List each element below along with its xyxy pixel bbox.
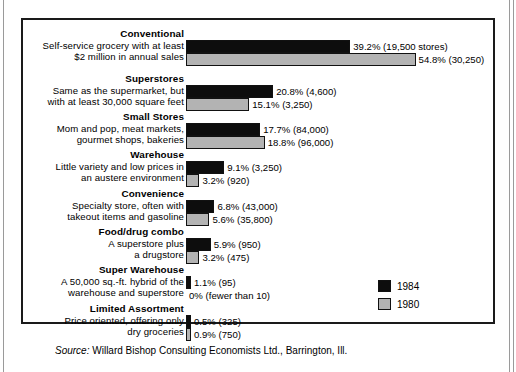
source-text: Willard Bishop Consulting Economists Ltd… [89,345,347,356]
chart-row: WarehouseLittle variety and low prices i… [23,151,493,181]
row-label-block: Limited AssortmentPrice oriented, offeri… [23,303,184,338]
bar-1980 [186,213,209,226]
page-edge-rule-right-outer [513,0,514,372]
page-edge-rule-right [509,0,510,372]
row-category-label: Super Warehouse [23,264,184,276]
bar-value-label-1984: 1.1% (95) [194,277,236,288]
bar-value-label-1980: 5.6% (35,800) [212,214,272,225]
bar-value-label-1984: 9.1% (3,250) [227,162,282,173]
chart-row: Food/drug comboA superstore plusa drugst… [23,228,493,258]
bar-value-label-1980: 0.9% (750) [194,329,241,340]
row-label-block: Food/drug comboA superstore plusa drugst… [23,226,184,261]
chart-row: ConvenienceSpecialty store, often withta… [23,190,493,220]
bar-1984 [186,123,260,136]
row-category-label: Limited Assortment [23,303,184,315]
row-description-line2: with at least 30,000 square feet [23,96,184,108]
row-label-block: SuperstoresSame as the supermarket, butw… [23,73,184,108]
bar-1980 [186,174,199,187]
row-description-line1: Same as the supermarket, but [23,85,184,97]
chart-legend: 1984 1980 [378,279,419,315]
legend-item-1980: 1980 [378,297,419,311]
bar-value-label-1984: 17.7% (84,000) [263,124,329,135]
bar-value-label-1980: 0% (fewer than 10) [189,290,270,301]
bar-value-label-1980: 15.1% (3,250) [252,99,312,110]
bar-1984 [186,276,191,289]
chart-row: Super WarehouseA 50,000 sq.-ft. hybrid o… [23,266,493,296]
row-category-label: Superstores [23,73,184,85]
row-category-label: Conventional [23,28,184,40]
source-prefix: Source: [55,345,89,356]
bar-1984 [186,161,224,174]
chart-rows: ConventionalSelf-service grocery with at… [23,20,493,322]
legend-swatch-1980-icon [378,298,391,310]
bar-value-label-1984: 6.8% (43,000) [217,201,277,212]
bar-value-label-1980: 3.2% (475) [202,252,249,263]
row-label-block: WarehouseLittle variety and low prices i… [23,149,184,184]
chart-row: ConventionalSelf-service grocery with at… [23,30,493,60]
row-description-line2: warehouse and superstore [23,287,184,299]
chart-row: Limited AssortmentPrice oriented, offeri… [23,305,493,335]
legend-item-1984: 1984 [378,279,419,293]
chart-frame: ConventionalSelf-service grocery with at… [21,18,495,324]
bar-1984 [186,315,191,328]
row-description-line2: a drugstore [23,249,184,261]
chart-row: SuperstoresSame as the supermarket, butw… [23,75,493,105]
row-category-label: Food/drug combo [23,226,184,238]
bar-value-label-1984: 0.5% (325) [194,316,241,327]
bar-value-label-1984: 5.9% (950) [214,239,261,250]
bar-1984 [186,200,214,213]
row-description-line1: A superstore plus [23,238,184,250]
bar-1980 [186,136,265,149]
row-description-line2: gourmet shops, bakeries [23,134,184,146]
row-description-line1: Self-service grocery with at least [23,40,184,52]
row-category-label: Small Stores [23,111,184,123]
bar-value-label-1984: 20.8% (4,600) [276,86,336,97]
bar-value-label-1980: 54.8% (30,250) [419,54,485,65]
legend-swatch-1984-icon [378,280,391,292]
row-label-block: ConventionalSelf-service grocery with at… [23,28,184,63]
source-note: Source: Willard Bishop Consulting Econom… [55,345,347,356]
row-description-line1: Specialty store, often with [23,200,184,212]
page-edge-rule-left [3,0,4,372]
bar-1980 [186,251,199,264]
row-description-line2: $2 million in annual sales [23,51,184,63]
row-label-block: Small StoresMom and pop, meat markets,go… [23,111,184,146]
row-description-line2: takeout items and gasoline [23,211,184,223]
row-label-block: ConvenienceSpecialty store, often withta… [23,188,184,223]
row-category-label: Convenience [23,188,184,200]
row-description-line1: Mom and pop, meat markets, [23,123,184,135]
bar-1980 [186,98,249,111]
legend-label-1984: 1984 [397,281,419,292]
chart-row: Small StoresMom and pop, meat markets,go… [23,113,493,143]
row-description-line1: Price oriented, offering only [23,315,184,327]
legend-label-1980: 1980 [397,299,419,310]
bar-1980 [186,328,191,341]
row-category-label: Warehouse [23,149,184,161]
bar-1984 [186,85,273,98]
row-description-line2: dry groceries [23,326,184,338]
bar-1980 [186,53,416,66]
bar-1984 [186,238,211,251]
row-label-block: Super WarehouseA 50,000 sq.-ft. hybrid o… [23,264,184,299]
row-description-line1: A 50,000 sq.-ft. hybrid of the [23,276,184,288]
row-description-line1: Little variety and low prices in [23,161,184,173]
bar-value-label-1980: 18.8% (96,000) [268,137,334,148]
bar-value-label-1980: 3.2% (920) [202,175,249,186]
row-description-line2: an austere environment [23,172,184,184]
bar-value-label-1984: 39.2% (19,500 stores) [353,41,447,52]
bar-1984 [186,40,350,53]
